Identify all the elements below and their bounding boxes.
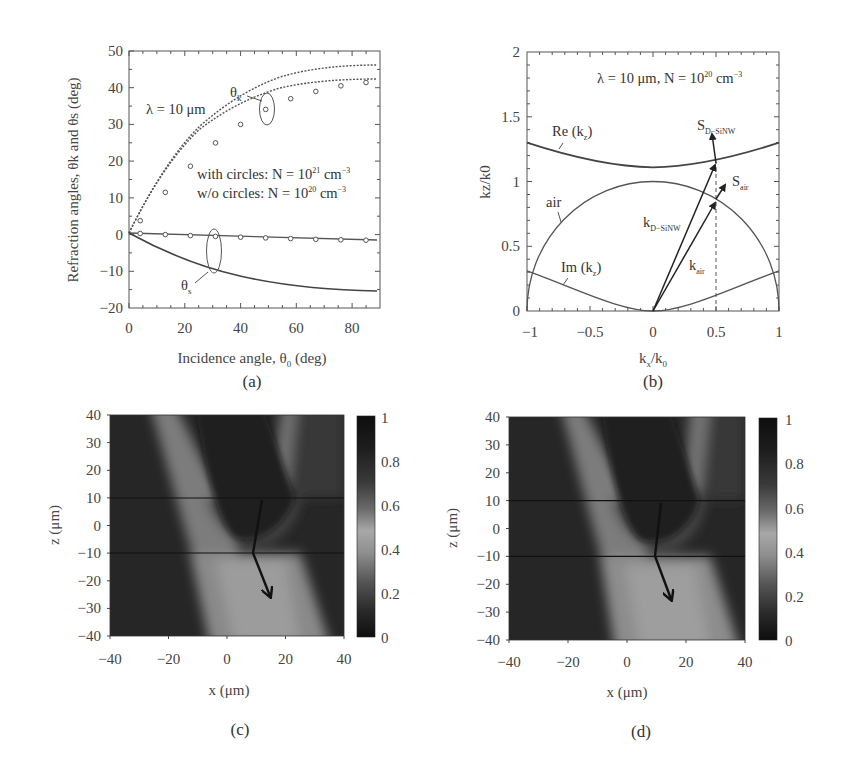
svg-text:−20: −20	[157, 651, 180, 667]
y-axis-label: kz/k0	[477, 165, 493, 198]
svg-text:1: 1	[381, 410, 389, 426]
y-tick-labels: 2 1.5 1 0.5 0	[501, 44, 520, 319]
svg-text:0: 0	[94, 518, 102, 534]
svg-text:0: 0	[623, 654, 631, 670]
re-kz-label: Re (kz)	[552, 123, 592, 142]
svg-text:40: 40	[233, 320, 248, 336]
svg-text:10: 10	[485, 493, 500, 509]
air-label: air	[546, 194, 561, 210]
svg-text:2: 2	[513, 44, 521, 60]
caption-d: (d)	[631, 722, 651, 741]
svg-text:50: 50	[108, 43, 123, 59]
x-axis-label: kx/k0	[639, 350, 668, 369]
vector-k-air	[653, 203, 715, 311]
y-tick-labels: 50 40 30 20 10 0 −10 −20	[100, 43, 123, 316]
svg-text:40: 40	[337, 651, 352, 667]
svg-text:0.5: 0.5	[501, 238, 520, 254]
svg-text:30: 30	[86, 435, 101, 451]
svg-text:0: 0	[223, 651, 231, 667]
svg-text:−10: −10	[78, 545, 101, 561]
svg-text:0.2: 0.2	[785, 589, 804, 605]
curve-re-kz	[527, 143, 779, 168]
svg-text:20: 20	[278, 651, 293, 667]
svg-text:40: 40	[485, 409, 500, 425]
k-dsinw-label: kD−SiNW	[643, 214, 681, 233]
air-leader	[558, 212, 561, 222]
svg-text:60: 60	[289, 320, 304, 336]
svg-text:−20: −20	[477, 576, 500, 592]
svg-text:10: 10	[86, 490, 101, 506]
vector-k-dsinw	[653, 165, 715, 311]
panel-b: 2 1.5 1 0.5 0 −1 −0.5 0 0.5 1 λ = 10 μm,…	[477, 44, 783, 391]
x-tick-labels: 0 20 40 60 80	[125, 320, 359, 336]
figure-canvas: 50 40 30 20 10 0 −10 −20 0 20 40 60 80	[0, 0, 843, 771]
svg-text:40: 40	[108, 80, 123, 96]
svg-text:20: 20	[86, 462, 101, 478]
panel-b-title: λ = 10 μm, N = 1020 cm−3	[597, 70, 742, 86]
colorbar-tick-labels: 1 0.8 0.6 0.4 0.2 0	[381, 410, 400, 646]
y-axis-label: Refraction angles, θk and θs (deg)	[65, 77, 82, 282]
svg-text:−30: −30	[78, 600, 101, 616]
y-tick-labels: 40 30 20 10 0 −10 −20 −30 −40	[78, 407, 101, 644]
svg-text:−20: −20	[100, 300, 123, 316]
curve-air	[527, 181, 779, 311]
s-dsinw-label: SD−SiNW	[697, 117, 736, 136]
colorbar-d	[759, 418, 777, 640]
caption-b: (b)	[643, 372, 663, 391]
y-axis-label: z (μm)	[444, 508, 461, 548]
svg-text:−10: −10	[477, 548, 500, 564]
y-tick-labels: 40 30 20 10 0 −10 −20 −30 −40	[477, 409, 500, 648]
svg-text:40: 40	[738, 654, 753, 670]
curve-theta-k-1e21	[129, 65, 377, 233]
svg-text:1: 1	[785, 412, 793, 428]
svg-text:20: 20	[177, 320, 192, 336]
svg-text:30: 30	[485, 437, 500, 453]
y-axis-label: z (μm)	[46, 505, 63, 545]
colorbar-c	[357, 416, 375, 637]
svg-text:10: 10	[108, 190, 123, 206]
svg-text:0.5: 0.5	[707, 324, 726, 340]
svg-text:1: 1	[513, 174, 521, 190]
caption-a: (a)	[243, 372, 262, 391]
colorbar-tick-labels: 1 0.8 0.6 0.4 0.2 0	[785, 412, 804, 649]
svg-text:0: 0	[513, 303, 521, 319]
svg-text:−1: −1	[522, 324, 538, 340]
x-axis-label: Incidence angle, θ0 (deg)	[177, 350, 326, 369]
theta-k-label: θk	[230, 84, 242, 103]
svg-text:1: 1	[775, 324, 783, 340]
svg-text:0.6: 0.6	[785, 501, 804, 517]
svg-text:20: 20	[679, 654, 694, 670]
x-tick-labels: −40 −20 0 20 40	[98, 651, 351, 667]
theta-s-leader	[195, 272, 208, 283]
svg-text:−20: −20	[556, 654, 579, 670]
svg-text:0: 0	[125, 320, 133, 336]
im-kz-label: Im (kz)	[561, 259, 601, 278]
svg-text:0: 0	[381, 630, 389, 646]
vector-s-air	[716, 185, 725, 199]
svg-text:−30: −30	[477, 604, 500, 620]
k-air-label: kair	[689, 257, 705, 276]
svg-text:0: 0	[785, 633, 793, 649]
with-circles-label: with circles: N = 1021 cm−3	[197, 166, 350, 182]
vector-s-dsinw	[712, 134, 716, 163]
svg-text:0.2: 0.2	[381, 586, 400, 602]
heatmap-c	[110, 405, 344, 645]
svg-text:0.4: 0.4	[381, 542, 400, 558]
panel-c: 40 30 20 10 0 −10 −20 −30 −40 −40 −20 0 …	[46, 405, 400, 739]
x-axis-label: x (μm)	[209, 682, 250, 699]
svg-text:40: 40	[86, 407, 101, 423]
svg-text:0: 0	[116, 227, 124, 243]
svg-text:0: 0	[649, 324, 657, 340]
im-kz-leader	[563, 278, 568, 285]
panel-a: 50 40 30 20 10 0 −10 −20 0 20 40 60 80	[65, 43, 380, 391]
lambda-label: λ = 10 μm	[146, 101, 206, 117]
svg-text:−40: −40	[477, 632, 500, 648]
svg-text:0.4: 0.4	[785, 545, 804, 561]
x-tick-labels: −1 −0.5 0 0.5 1	[522, 324, 783, 340]
svg-text:−40: −40	[98, 651, 121, 667]
svg-text:0.8: 0.8	[785, 456, 804, 472]
svg-text:−40: −40	[78, 628, 101, 644]
svg-text:0.6: 0.6	[381, 498, 400, 514]
x-tick-labels: −40 −20 0 20 40	[497, 654, 752, 670]
svg-text:20: 20	[485, 465, 500, 481]
